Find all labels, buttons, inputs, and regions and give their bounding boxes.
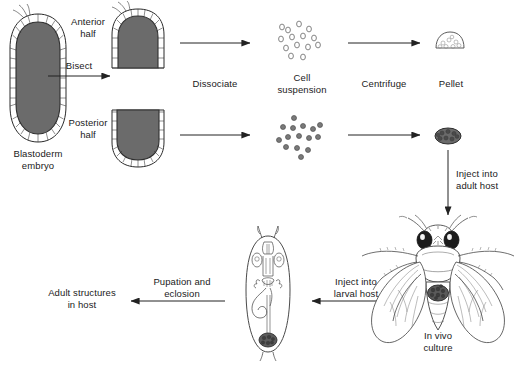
posterior-half-figure <box>112 110 164 167</box>
label-bisect: Bisect <box>46 60 112 72</box>
label-inject-larval-host: Inject into larval host <box>318 276 394 299</box>
label-inject-adult-host: Inject into adult host <box>456 168 530 191</box>
diagram-artwork <box>0 0 531 373</box>
anterior-half-figure <box>112 1 164 68</box>
diagram-canvas: Blastoderm embryo Bisect Anterior half P… <box>0 0 531 373</box>
cell-suspension-posterior-figure <box>277 116 323 160</box>
label-adult-structures-in-host: Adult structures in host <box>34 287 130 310</box>
label-cell-suspension: Cell suspension <box>266 72 338 95</box>
label-pupation-eclosion: Pupation and eclosion <box>140 276 224 299</box>
label-anterior-half: Anterior half <box>64 16 112 39</box>
pellet-posterior-figure <box>435 128 461 144</box>
pellet-anterior-figure <box>436 32 464 49</box>
label-posterior-half: Posterior half <box>64 117 112 140</box>
label-centrifuge: Centrifuge <box>346 78 422 90</box>
larva-figure <box>246 226 290 361</box>
label-dissociate: Dissociate <box>178 78 252 90</box>
blastoderm-embryo-figure <box>10 4 66 142</box>
cell-suspension-anterior-figure <box>279 21 321 60</box>
label-in-vivo-culture: In vivo culture <box>407 330 469 353</box>
label-blastoderm-embryo: Blastoderm embryo <box>0 148 76 171</box>
label-pellet: Pellet <box>424 78 478 90</box>
